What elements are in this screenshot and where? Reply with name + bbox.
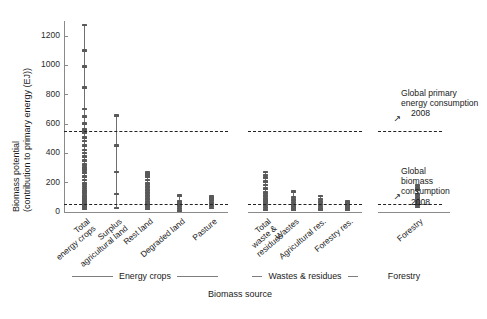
reference-annotation-line-1: energy consumption xyxy=(401,98,485,108)
data-point xyxy=(145,191,150,194)
data-point xyxy=(82,171,87,174)
reference-line-1 xyxy=(248,204,362,205)
data-point xyxy=(114,207,119,210)
data-point xyxy=(114,114,119,117)
data-point xyxy=(145,188,150,191)
x-category-label-line-0: Forestry res. xyxy=(302,217,356,264)
biomass-potential-chart: Biomass potential(contribution to primar… xyxy=(0,0,487,319)
y-tick-600 xyxy=(65,124,68,125)
data-point xyxy=(145,200,150,203)
reference-annotation-year: 2008 xyxy=(401,108,485,118)
data-point xyxy=(114,144,119,147)
y-tick-label-800: 800 xyxy=(28,90,60,98)
y-tick-label-400: 400 xyxy=(28,148,60,156)
x-category-label-8: Forestry res. xyxy=(302,217,356,264)
group-bracket-line-1-0 xyxy=(252,276,262,277)
data-point xyxy=(82,155,87,158)
data-point xyxy=(82,144,87,147)
reference-annotation-line-1: biomass xyxy=(401,176,485,186)
reference-annotation-1: Globalbiomassconsumption2008 xyxy=(401,166,485,207)
data-point xyxy=(177,209,182,212)
data-point xyxy=(263,206,268,209)
data-point xyxy=(82,175,87,178)
data-point xyxy=(318,198,323,201)
reference-line-0 xyxy=(248,131,362,132)
data-point xyxy=(263,197,268,200)
x-category-label-5: Totalwaste & residues xyxy=(220,217,286,278)
y-tick-400 xyxy=(65,153,68,154)
data-point xyxy=(82,159,87,162)
group-bracket-line-0-1 xyxy=(177,276,218,277)
data-point xyxy=(291,198,296,201)
data-point xyxy=(263,194,268,197)
data-point xyxy=(263,176,268,179)
data-point xyxy=(177,200,182,203)
data-point xyxy=(82,149,87,152)
y-axis-label-line-0: Biomass potential xyxy=(11,68,22,212)
y-tick-800 xyxy=(65,94,68,95)
data-point xyxy=(263,174,268,177)
data-point xyxy=(114,171,119,174)
y-axis-line xyxy=(64,21,65,213)
data-point xyxy=(263,171,268,174)
data-point xyxy=(145,179,150,182)
data-point xyxy=(82,136,87,139)
data-point xyxy=(263,208,268,211)
x-category-label-9: Forestry xyxy=(371,217,425,264)
reference-annotation-arrow-0: ↙ xyxy=(393,114,401,124)
data-point xyxy=(82,65,87,68)
data-point xyxy=(82,163,87,166)
data-point xyxy=(82,187,87,190)
data-point xyxy=(145,185,150,188)
reference-line-0 xyxy=(378,131,442,132)
data-point xyxy=(82,182,87,185)
data-point xyxy=(263,187,268,190)
x-category-label-line-0: Forestry xyxy=(371,217,425,264)
data-point xyxy=(263,180,268,183)
data-point xyxy=(82,179,87,182)
y-tick-200 xyxy=(65,182,68,183)
reference-annotation-year: 2008 xyxy=(401,197,485,207)
data-point xyxy=(82,194,87,197)
data-point xyxy=(318,200,323,203)
data-point xyxy=(177,194,182,197)
y-tick-label-1200: 1200 xyxy=(28,31,60,39)
y-tick-1000 xyxy=(65,65,68,66)
reference-annotation-0: Global primaryenergy consumption2008 xyxy=(401,88,485,119)
x-axis-line-forestry xyxy=(378,212,450,213)
reference-line-1 xyxy=(64,204,228,205)
data-point xyxy=(345,200,350,203)
data-point xyxy=(82,189,87,192)
data-point xyxy=(82,86,87,89)
x-axis-line-wastes-residues xyxy=(248,212,362,213)
data-point xyxy=(82,122,87,125)
y-tick-1200 xyxy=(65,36,68,37)
data-point xyxy=(263,191,268,194)
reference-annotation-line-0: Global xyxy=(401,166,485,176)
data-point xyxy=(82,166,87,169)
data-point xyxy=(82,24,87,27)
y-tick-label-0: 0 xyxy=(28,207,60,215)
data-point xyxy=(291,196,296,199)
y-tick-label-1000: 1000 xyxy=(28,60,60,68)
reference-line-0 xyxy=(64,131,228,132)
group-label-1: Wastes & residues xyxy=(250,271,360,281)
data-point xyxy=(145,182,150,185)
data-point xyxy=(145,194,150,197)
data-point xyxy=(291,190,296,193)
data-point xyxy=(145,171,150,174)
data-point xyxy=(82,49,87,52)
reference-annotation-line-0: Global primary xyxy=(401,88,485,98)
group-bracket-line-0-0 xyxy=(72,276,113,277)
data-point xyxy=(114,193,119,196)
data-point xyxy=(82,115,87,118)
data-point xyxy=(82,152,87,155)
reference-annotation-line-2: consumption xyxy=(401,186,485,196)
data-point xyxy=(145,197,150,200)
y-tick-label-600: 600 xyxy=(28,119,60,127)
data-point xyxy=(82,108,87,111)
y-tick-label-200: 200 xyxy=(28,178,60,186)
reference-annotation-arrow-1: ↙ xyxy=(393,192,401,202)
x-axis-line-energy-crops xyxy=(64,212,228,213)
x-axis-label: Biomass source xyxy=(150,289,330,299)
